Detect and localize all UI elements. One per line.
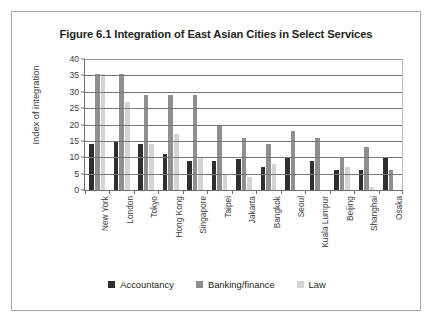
legend-swatch-icon (108, 281, 115, 288)
gridline (85, 75, 403, 76)
y-tick-mark (81, 59, 85, 60)
y-tick-label: 35 (69, 70, 79, 80)
bar (242, 138, 247, 190)
legend-item[interactable]: Law (297, 279, 326, 290)
legend-label: Accountancy (120, 279, 174, 290)
plot-area: 0510152025303540 (84, 59, 403, 191)
x-axis-labels: New YorkLondonTokyoHong KongSingaporeTai… (84, 194, 402, 264)
x-label-cell: Singapore (182, 194, 206, 264)
y-tick-mark (81, 157, 85, 158)
bar (149, 144, 154, 190)
x-label-cell: Hong Kong (157, 194, 181, 264)
y-tick-mark (81, 190, 85, 191)
bar (125, 102, 130, 190)
bar (310, 161, 315, 190)
bar (163, 154, 168, 190)
x-label-cell: Seoul (280, 194, 304, 264)
y-tick-mark (81, 75, 85, 76)
legend-swatch-icon (297, 281, 304, 288)
bar (144, 95, 149, 190)
legend-item[interactable]: Banking/finance (196, 279, 275, 290)
bar (187, 161, 192, 190)
bar (345, 167, 350, 190)
bar (315, 138, 320, 190)
gridline (85, 125, 403, 126)
x-label-cell: Kuala Lumpur (304, 194, 328, 264)
x-label-cell: Taipei (206, 194, 230, 264)
bar (138, 144, 143, 190)
legend-label: Law (309, 279, 326, 290)
gridline (85, 108, 403, 109)
bar (89, 144, 94, 190)
bar (370, 187, 375, 190)
y-tick-mark (81, 173, 85, 174)
bar (114, 141, 119, 190)
x-label-cell: Bangkok (255, 194, 279, 264)
bar (266, 144, 271, 190)
figure-frame: Figure 6.1 Integration of East Asian Cit… (11, 11, 421, 311)
y-tick-mark (81, 91, 85, 92)
x-label-cell: Beijing (329, 194, 353, 264)
y-tick-label: 40 (69, 54, 79, 64)
x-label-cell: New York (84, 194, 108, 264)
legend-label: Banking/finance (208, 279, 275, 290)
bar (272, 164, 277, 190)
bar (247, 177, 252, 190)
y-tick-label: 20 (69, 120, 79, 130)
legend-item[interactable]: Accountancy (108, 279, 174, 290)
bar (212, 161, 217, 190)
y-tick-label: 0 (74, 185, 79, 195)
bar (223, 174, 228, 190)
chart-area: Index of integration 0510152025303540 Ne… (12, 12, 422, 312)
gridline (85, 92, 403, 93)
x-tick-mark (402, 190, 403, 194)
gridline (85, 59, 403, 60)
bar (168, 95, 173, 190)
bar (193, 95, 198, 190)
legend-swatch-icon (196, 281, 203, 288)
y-tick-label: 30 (69, 87, 79, 97)
bar (174, 134, 179, 190)
y-tick-label: 25 (69, 103, 79, 113)
x-label-cell: London (108, 194, 132, 264)
y-tick-label: 15 (69, 136, 79, 146)
y-tick-mark (81, 140, 85, 141)
y-tick-label: 5 (74, 169, 79, 179)
y-tick-mark (81, 108, 85, 109)
gridline (85, 157, 403, 158)
gridline (85, 141, 403, 142)
x-label-cell: Tokyo (133, 194, 157, 264)
y-tick-label: 10 (69, 152, 79, 162)
x-label-cell: Shanghai (353, 194, 377, 264)
y-axis-label: Index of integration (31, 45, 41, 165)
chart-legend: AccountancyBanking/financeLaw (12, 279, 422, 290)
bar (261, 167, 266, 190)
bar (364, 147, 369, 190)
x-label-cell: Jakarta (231, 194, 255, 264)
y-tick-mark (81, 124, 85, 125)
gridline (85, 174, 403, 175)
plot-right-border (402, 59, 403, 190)
x-label-cell: Osaka (378, 194, 402, 264)
x-axis-tick-label: Osaka (394, 196, 404, 220)
